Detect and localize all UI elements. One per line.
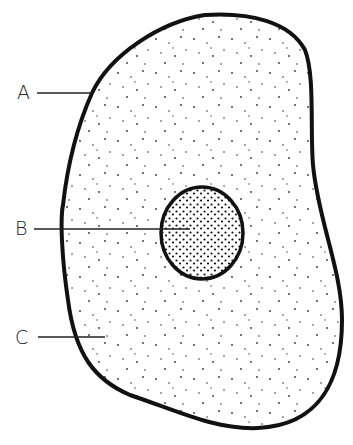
label-c: C: [15, 328, 28, 347]
label-b: B: [15, 219, 27, 238]
nucleus: [161, 187, 243, 279]
cell-diagram: [0, 0, 353, 445]
label-a: A: [17, 83, 30, 102]
